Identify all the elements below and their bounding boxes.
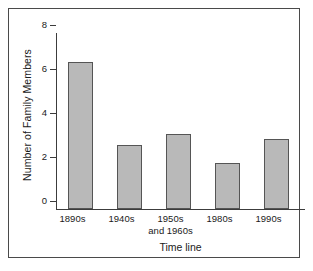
bar (117, 145, 142, 209)
y-axis-tick-label: 6 (17, 64, 47, 74)
bar (68, 62, 93, 209)
y-axis-tick-label-text: 8 (19, 20, 47, 30)
x-axis-tick-label: 1890s (48, 213, 97, 225)
x-axis-tick-label: 1980s (195, 213, 244, 225)
bar (215, 163, 240, 209)
y-axis-tick-label-text: 6 (19, 64, 47, 74)
y-axis-tick-label-text: 2 (19, 152, 47, 162)
chart-frame: Number of Family Members 02468 1890s1940… (8, 8, 300, 258)
x-axis-tick-label: 1990s (244, 213, 293, 225)
x-axis-line (56, 209, 305, 210)
y-axis-tick-mark (50, 25, 56, 26)
x-axis-tick-label: 1940s (97, 213, 146, 225)
y-axis-tick-label: 4 (17, 108, 47, 118)
x-axis-title: Time line (56, 241, 305, 253)
y-axis-tick-label: 0 (17, 196, 47, 206)
x-axis-tick-label: 1950s and 1960s (146, 213, 195, 236)
plot-area (56, 33, 301, 209)
y-axis-tick-label: 8 (17, 20, 47, 30)
y-axis-tick-label-text: 0 (19, 196, 47, 206)
bar (264, 139, 289, 209)
bar-chart-figure: Number of Family Members 02468 1890s1940… (0, 0, 313, 271)
bar (166, 134, 191, 209)
y-axis-tick-label: 2 (17, 152, 47, 162)
y-axis-tick-label-text: 4 (19, 108, 47, 118)
